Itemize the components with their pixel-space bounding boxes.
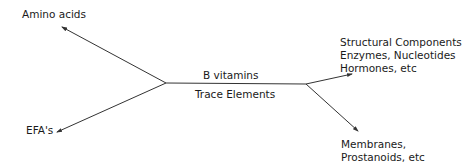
- output-line: Prostanoids, etc: [341, 151, 425, 164]
- output-line: Hormones, etc: [340, 62, 462, 75]
- output-line: Membranes,: [341, 138, 425, 151]
- label-structural-components: Structural Components Enzymes, Nucleotid…: [340, 36, 462, 75]
- arrow-to-structural: [306, 74, 352, 84]
- label-trace-elements: Trace Elements: [195, 88, 275, 101]
- output-line: Structural Components: [340, 36, 462, 49]
- label-membranes: Membranes, Prostanoids, etc: [341, 138, 425, 164]
- arrow-to-amino-acids: [62, 27, 166, 83]
- center-line: [166, 83, 306, 84]
- arrow-to-efas: [57, 83, 166, 132]
- label-efas: EFA's: [26, 124, 53, 137]
- label-amino-acids: Amino acids: [22, 8, 86, 21]
- arrow-to-membranes: [306, 84, 358, 131]
- label-b-vitamins: B vitamins: [203, 69, 259, 82]
- output-line: Enzymes, Nucleotides: [340, 49, 462, 62]
